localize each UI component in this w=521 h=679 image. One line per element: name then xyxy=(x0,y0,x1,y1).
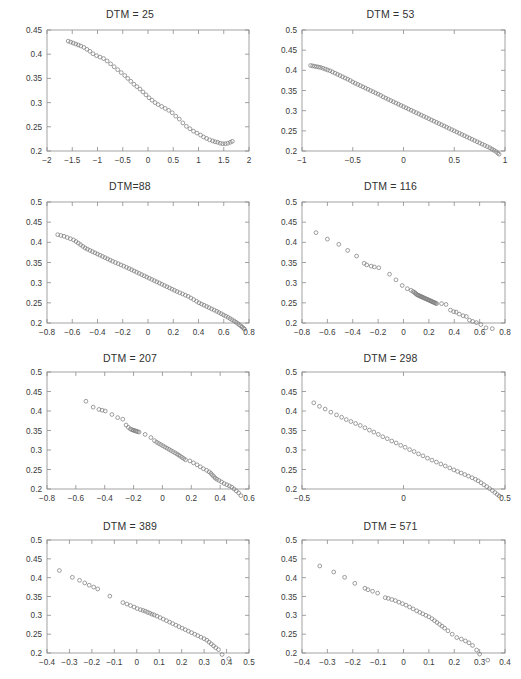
data-point xyxy=(368,428,372,432)
data-point xyxy=(143,433,147,437)
svg-text:−2: −2 xyxy=(42,156,52,165)
svg-text:−0.2: −0.2 xyxy=(370,328,387,337)
data-point xyxy=(326,68,330,72)
data-point xyxy=(124,423,128,427)
svg-text:0.5: 0.5 xyxy=(31,536,43,545)
data-point xyxy=(430,458,434,462)
data-point xyxy=(318,564,322,568)
data-point xyxy=(467,474,471,478)
svg-text:0.4: 0.4 xyxy=(449,328,461,337)
data-point xyxy=(325,237,329,241)
data-point xyxy=(353,581,357,585)
data-point xyxy=(116,416,120,420)
data-point xyxy=(156,103,160,107)
svg-text:0.4: 0.4 xyxy=(499,658,511,667)
svg-text:0.5: 0.5 xyxy=(449,156,461,165)
svg-text:−0.6: −0.6 xyxy=(64,328,81,337)
svg-text:1.5: 1.5 xyxy=(218,156,230,165)
svg-text:0.3: 0.3 xyxy=(198,658,210,667)
svg-text:0.4: 0.4 xyxy=(31,407,43,416)
data-point xyxy=(83,581,87,585)
svg-text:0.25: 0.25 xyxy=(26,123,42,132)
data-point xyxy=(408,448,412,452)
svg-text:0.3: 0.3 xyxy=(286,446,298,455)
data-point xyxy=(96,587,100,591)
svg-text:0.35: 0.35 xyxy=(281,87,297,96)
svg-text:−0.4: −0.4 xyxy=(39,658,56,667)
data-point xyxy=(405,287,409,291)
data-point xyxy=(486,658,490,662)
data-point xyxy=(323,407,327,411)
svg-text:0.35: 0.35 xyxy=(26,593,42,602)
svg-text:0: 0 xyxy=(160,494,165,503)
data-point xyxy=(377,266,381,270)
svg-text:0.25: 0.25 xyxy=(281,630,297,639)
subplot-panel: DTM = 389 −0.4−0.3−0.2−0.100.10.20.30.40… xyxy=(0,520,260,679)
svg-text:0.35: 0.35 xyxy=(26,427,42,436)
svg-text:0.4: 0.4 xyxy=(214,494,226,503)
data-point xyxy=(121,601,125,605)
data-point xyxy=(366,588,370,592)
svg-text:0.5: 0.5 xyxy=(286,368,298,377)
svg-text:0.1: 0.1 xyxy=(154,658,166,667)
data-point xyxy=(312,401,316,405)
data-point xyxy=(126,77,130,81)
data-point xyxy=(188,459,192,463)
scatter-plot-svg: −0.8−0.6−0.4−0.200.20.40.60.20.250.30.35… xyxy=(0,352,260,520)
svg-text:0.2: 0.2 xyxy=(286,649,298,658)
data-point xyxy=(403,445,407,449)
svg-text:1: 1 xyxy=(503,156,508,165)
data-point xyxy=(70,575,74,579)
svg-text:0.45: 0.45 xyxy=(26,555,42,564)
data-point xyxy=(239,494,243,498)
data-point xyxy=(121,417,125,421)
data-point xyxy=(343,575,347,579)
data-point-group xyxy=(318,564,490,662)
svg-text:0.45: 0.45 xyxy=(26,26,42,35)
svg-text:0.45: 0.45 xyxy=(26,218,42,227)
subplot-panel: DTM=88 −0.8−0.6−0.4−0.200.20.40.60.80.20… xyxy=(0,180,260,352)
data-point xyxy=(459,471,463,475)
data-point xyxy=(337,242,341,246)
data-point xyxy=(434,460,438,464)
svg-text:0.25: 0.25 xyxy=(281,466,297,475)
svg-text:0.35: 0.35 xyxy=(281,427,297,436)
svg-text:0.3: 0.3 xyxy=(31,446,43,455)
subplot-panel: DTM = 53 −1−0.500.510.20.250.30.350.40.4… xyxy=(260,8,521,180)
svg-text:0.4: 0.4 xyxy=(31,238,43,247)
svg-text:0.25: 0.25 xyxy=(281,299,297,308)
svg-text:0.4: 0.4 xyxy=(286,238,298,247)
data-point xyxy=(335,413,339,417)
svg-text:−0.6: −0.6 xyxy=(319,328,336,337)
data-point xyxy=(363,426,367,430)
data-point xyxy=(354,422,358,426)
data-point xyxy=(372,430,376,434)
data-point xyxy=(385,437,389,441)
svg-text:0.2: 0.2 xyxy=(31,485,43,494)
data-point xyxy=(144,93,148,97)
data-point-group xyxy=(312,401,501,498)
data-point xyxy=(87,583,91,587)
data-point xyxy=(421,454,425,458)
data-point xyxy=(192,129,196,133)
svg-text:0.25: 0.25 xyxy=(26,630,42,639)
svg-text:0.35: 0.35 xyxy=(281,259,297,268)
data-point xyxy=(116,68,120,72)
svg-text:0.4: 0.4 xyxy=(31,50,43,59)
data-point xyxy=(459,637,463,641)
svg-text:−0.6: −0.6 xyxy=(68,494,85,503)
data-point xyxy=(177,117,181,121)
svg-text:0.5: 0.5 xyxy=(286,26,298,35)
data-point-group xyxy=(314,231,494,331)
data-point xyxy=(457,312,461,316)
svg-text:−0.2: −0.2 xyxy=(345,658,362,667)
data-point xyxy=(321,66,325,70)
data-point xyxy=(332,570,336,574)
svg-text:0.25: 0.25 xyxy=(281,127,297,136)
data-point xyxy=(174,114,178,118)
data-point xyxy=(444,303,448,307)
data-point xyxy=(108,594,112,598)
data-point xyxy=(475,648,479,652)
data-point xyxy=(358,424,362,428)
data-point xyxy=(464,639,468,643)
